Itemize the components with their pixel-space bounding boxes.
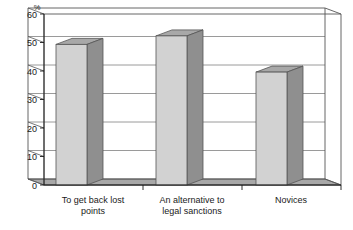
y-tick-label-50: 50	[27, 38, 37, 48]
plot-ceiling-plane	[28, 8, 341, 14]
y-axis-unit-label: %	[34, 3, 41, 12]
bar-group-1[interactable]	[56, 38, 103, 185]
x-category-label-3-line-1: Novices	[275, 195, 308, 205]
y-tick-label-40: 40	[27, 67, 37, 77]
bar-2-front-face	[156, 36, 187, 185]
bar-1-side-face	[87, 38, 103, 185]
x-axis-category-labels: To get back lost points An alternative t…	[62, 195, 308, 216]
bar-3-side-face	[287, 66, 303, 185]
bar-2-side-face	[187, 30, 203, 185]
bar-group-2[interactable]	[156, 30, 203, 185]
bar-chart-figure: 60 50 40 30 20 10 0 %	[0, 0, 353, 230]
x-category-label-2-line-2: legal sanctions	[162, 206, 222, 216]
x-axis	[44, 185, 341, 190]
y-tick-label-20: 20	[27, 124, 37, 134]
bar-1-front-face	[56, 44, 87, 185]
x-category-label-2-line-1: An alternative to	[159, 195, 224, 205]
bar-group-3[interactable]	[256, 66, 303, 185]
chart-canvas: 60 50 40 30 20 10 0 %	[0, 0, 353, 230]
y-tick-label-0: 0	[32, 181, 37, 191]
y-tick-label-30: 30	[27, 95, 37, 105]
x-category-label-1-line-2: points	[81, 206, 106, 216]
bar-3-front-face	[256, 72, 287, 185]
y-tick-label-10: 10	[27, 152, 37, 162]
x-category-label-1-line-1: To get back lost	[62, 195, 125, 205]
